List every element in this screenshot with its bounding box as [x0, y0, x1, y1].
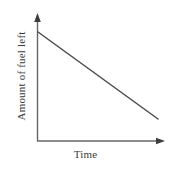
y-axis-label-container: Amount of fuel left [14, 28, 28, 124]
y-axis-arrowhead-icon [34, 13, 41, 22]
fuel-data-line [38, 32, 158, 119]
x-axis-label: Time [0, 149, 171, 160]
fuel-vs-time-chart: Amount of fuel left Time [0, 0, 171, 169]
y-axis-label: Amount of fuel left [16, 31, 27, 120]
x-axis-arrowhead-icon [156, 138, 165, 145]
